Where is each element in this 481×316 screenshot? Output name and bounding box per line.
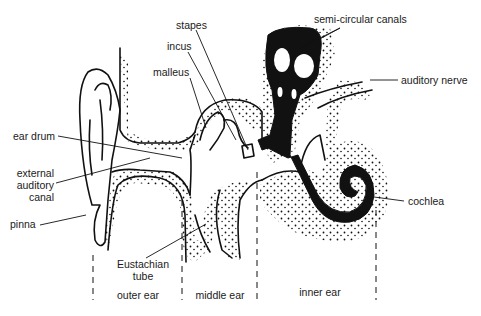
- label-semicircular-canals: semi-circular canals: [314, 13, 407, 25]
- label-eustachian-tube-line2: tube: [110, 270, 176, 282]
- region-outer-ear: outer ear: [100, 289, 176, 301]
- label-external-auditory-canal-line1: external: [8, 167, 54, 179]
- label-external-auditory-canal-line2: auditory: [8, 179, 54, 191]
- label-eustachian-tube-line1: Eustachian: [110, 258, 176, 270]
- label-auditory-nerve: auditory nerve: [401, 74, 468, 86]
- ear-drawing: [0, 0, 481, 316]
- label-stapes: stapes: [176, 19, 207, 31]
- label-external-auditory-canal-line3: canal: [8, 191, 54, 203]
- stapes-shape: [242, 144, 254, 158]
- label-pinna: pinna: [10, 218, 36, 230]
- label-malleus: malleus: [153, 66, 189, 78]
- label-incus: incus: [167, 40, 192, 52]
- label-cochlea: cochlea: [408, 195, 444, 207]
- region-inner-ear: inner ear: [270, 286, 370, 298]
- label-ear-drum: ear drum: [13, 130, 55, 142]
- region-middle-ear: middle ear: [186, 289, 254, 301]
